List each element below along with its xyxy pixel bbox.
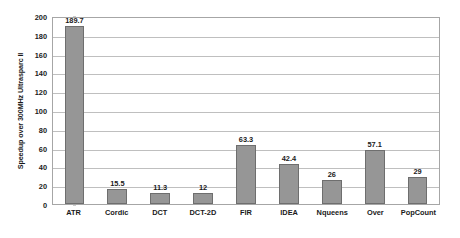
bar-slot: 11.3 bbox=[139, 18, 182, 204]
y-axis-tick-label: 0 bbox=[43, 201, 47, 210]
bar-chart: Speedup over 300MHz Ultrasparc II 200180… bbox=[0, 0, 460, 238]
y-axis-tick-label: 60 bbox=[39, 144, 47, 153]
y-axis-tick-label: 200 bbox=[35, 13, 47, 22]
x-axis-tick-label: Cordic bbox=[95, 208, 138, 224]
x-axis-tick-label: Over bbox=[354, 208, 397, 224]
bar-value-label: 42.4 bbox=[282, 154, 296, 163]
bar-slot: 42.4 bbox=[267, 18, 310, 204]
bar-slot: 29 bbox=[396, 18, 439, 204]
bar-slot: 63.3 bbox=[225, 18, 268, 204]
bar-value-label: 11.3 bbox=[153, 183, 167, 192]
bar[interactable]: 57.1 bbox=[365, 150, 385, 204]
bar[interactable]: 42.4 bbox=[279, 164, 299, 204]
bar[interactable]: 189.7 bbox=[65, 26, 85, 204]
y-axis-tick-label: 40 bbox=[39, 163, 47, 172]
bar[interactable]: 15.5 bbox=[107, 189, 127, 204]
y-axis-tick-label: 80 bbox=[39, 125, 47, 134]
bars-layer: 189.715.511.31263.342.42657.129 bbox=[53, 18, 439, 204]
y-axis-title: Speedup over 300MHz Ultrasparc II bbox=[13, 17, 27, 205]
x-axis-tick-label: Nqueens bbox=[311, 208, 354, 224]
bar[interactable]: 11.3 bbox=[150, 193, 170, 204]
x-axis-tick-label: DCT bbox=[138, 208, 181, 224]
bar-value-label: 26 bbox=[328, 170, 336, 179]
bar[interactable]: 26 bbox=[322, 180, 342, 204]
x-axis-tick-label: IDEA bbox=[268, 208, 311, 224]
y-axis-tick-labels: 200180160140120100806040200 bbox=[26, 17, 50, 205]
bar-slot: 15.5 bbox=[96, 18, 139, 204]
x-axis-tick-label: FIR bbox=[224, 208, 267, 224]
y-axis-tick-label: 160 bbox=[35, 50, 47, 59]
x-axis-tick-label: DCT-2D bbox=[181, 208, 224, 224]
bar[interactable]: 29 bbox=[408, 177, 428, 204]
y-axis-tick-label: 120 bbox=[35, 88, 47, 97]
bar-slot: 189.7 bbox=[53, 18, 96, 204]
y-axis-tick-label: 100 bbox=[35, 107, 47, 116]
bar-value-label: 12 bbox=[199, 183, 207, 192]
y-axis-tick-label: 20 bbox=[39, 182, 47, 191]
bar[interactable]: 63.3 bbox=[236, 145, 256, 205]
bar-slot: 26 bbox=[310, 18, 353, 204]
x-axis-tick-label: PopCount bbox=[397, 208, 440, 224]
bar-slot: 12 bbox=[182, 18, 225, 204]
bar-value-label: 57.1 bbox=[367, 140, 381, 149]
plot-area: 189.715.511.31263.342.42657.129 bbox=[52, 17, 440, 205]
bar-slot: 57.1 bbox=[353, 18, 396, 204]
bar-value-label: 29 bbox=[413, 167, 421, 176]
bar[interactable]: 12 bbox=[193, 193, 213, 204]
bar-value-label: 189.7 bbox=[65, 16, 84, 25]
bar-value-label: 15.5 bbox=[110, 179, 124, 188]
bar-value-label: 63.3 bbox=[239, 135, 253, 144]
y-axis-tick-label: 140 bbox=[35, 69, 47, 78]
y-axis-tick-label: 180 bbox=[35, 31, 47, 40]
x-axis-tick-labels: ATRCordicDCTDCT-2DFIRIDEANqueensOverPopC… bbox=[52, 208, 440, 224]
x-axis-tick-label: ATR bbox=[52, 208, 95, 224]
